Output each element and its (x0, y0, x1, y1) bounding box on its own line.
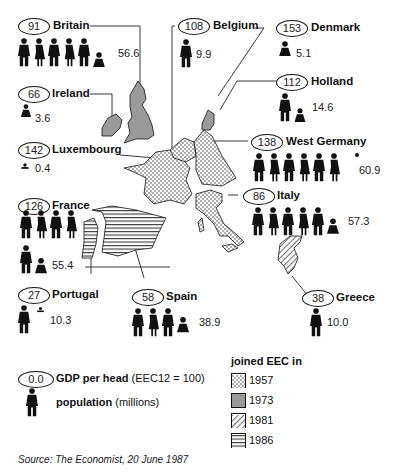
population-value-italy: 57.3 (348, 215, 369, 227)
woman-icon (298, 153, 310, 182)
gdp-oval-greece: 38 (302, 290, 334, 307)
population-figures-italy (252, 207, 339, 236)
man-icon (282, 207, 294, 236)
population-figures-britain (18, 38, 105, 67)
legend-gdp-oval: 0.0 (18, 371, 54, 388)
woman-icon (33, 38, 45, 67)
gdp-oval-ireland: 66 (18, 86, 50, 103)
legend-year-1973: 1973 (249, 394, 273, 406)
map-portugal (82, 218, 98, 258)
partial-person-icon (177, 312, 189, 337)
population-figures-luxembourg (20, 163, 30, 169)
country-name-west-germany: West Germany (286, 135, 366, 147)
country-name-belgium: Belgium (213, 19, 258, 31)
woman-icon (267, 207, 279, 236)
map-britain (124, 81, 154, 143)
partial-person-icon (20, 104, 32, 117)
population-figures-west-germany (253, 153, 340, 182)
partial-person-icon (35, 257, 47, 274)
map-sicily (222, 244, 238, 252)
man-icon (180, 39, 192, 68)
population-value-denmark: 5.1 (296, 47, 311, 59)
woman-icon (65, 210, 77, 239)
legend-year-1986: 1986 (249, 434, 273, 446)
man-icon (50, 210, 62, 239)
population-value-ireland: 3.6 (35, 112, 50, 124)
man-icon (18, 305, 30, 334)
population-value-belgium: 9.9 (196, 48, 211, 60)
man-icon (20, 210, 32, 239)
gdp-oval-italy: 86 (243, 188, 275, 205)
gdp-oval-denmark: 153 (276, 20, 308, 37)
population-figures-ireland (20, 104, 32, 117)
legend-swatch-1957 (231, 373, 246, 388)
legend-gdp-note: (EEC12 = 100) (132, 372, 205, 384)
country-name-ireland: Ireland (52, 87, 90, 99)
map-spain (92, 206, 166, 256)
woman-icon (328, 153, 340, 182)
map-greece (278, 236, 302, 274)
man-icon (48, 38, 60, 67)
man-icon (312, 207, 324, 236)
man-icon (18, 38, 30, 67)
population-figures-holland (279, 93, 306, 122)
gdp-oval-belgium: 108 (178, 18, 210, 35)
map-italy (196, 190, 244, 246)
country-name-italy: Italy (277, 189, 300, 201)
population-figures-denmark (279, 41, 291, 56)
tiny-person-icon (20, 163, 30, 169)
man-icon (313, 153, 325, 182)
legend-gdp-label: GDP per head (56, 372, 129, 384)
dot-icon (355, 153, 359, 157)
population-value-greece: 10.0 (327, 316, 348, 328)
population-figures-spain (132, 308, 189, 337)
partial-person-icon (93, 52, 105, 67)
legend-year-1957: 1957 (249, 374, 273, 386)
population-figures-belgium (180, 39, 192, 68)
legend-joined-title: joined EEC in (231, 355, 302, 367)
population-value-spain: 38.9 (199, 316, 220, 328)
country-name-portugal: Portugal (52, 288, 99, 300)
legend-swatch-1973 (231, 393, 246, 408)
man-icon (252, 207, 264, 236)
country-name-greece: Greece (336, 291, 375, 303)
man-icon (253, 153, 265, 182)
partial-person-icon (279, 41, 291, 56)
legend-person-icon (26, 388, 38, 417)
map-sardinia (198, 218, 204, 232)
source-caption: Source: The Economist, 20 June 1987 (18, 454, 188, 465)
legend-swatch-1986 (231, 433, 246, 448)
gdp-oval-portugal: 27 (18, 287, 50, 304)
country-name-denmark: Denmark (311, 21, 360, 33)
gdp-oval-west-germany: 138 (251, 134, 283, 151)
man-icon (310, 308, 322, 337)
partial-person-icon (327, 216, 339, 236)
country-name-luxembourg: Luxembourg (52, 143, 122, 155)
population-figures-portugal (18, 305, 30, 334)
man-icon (283, 153, 295, 182)
gdp-oval-britain: 91 (18, 18, 50, 35)
legend-population-label: population (56, 396, 112, 408)
population-value-portugal: 10.3 (50, 314, 71, 326)
partial-person-icon (294, 108, 306, 122)
population-figures-greece (310, 308, 322, 337)
map-denmark (202, 110, 214, 130)
woman-icon (35, 210, 47, 239)
population-value-britain: 56.6 (118, 47, 139, 59)
population-figures-france-row1 (20, 210, 77, 239)
gdp-oval-holland: 112 (276, 74, 308, 91)
legend-swatch-1981 (231, 413, 246, 428)
legend-year-1981: 1981 (249, 414, 273, 426)
man-icon (279, 93, 291, 122)
gdp-oval-spain: 58 (132, 289, 164, 306)
population-value-luxembourg: 0.4 (35, 162, 50, 174)
population-value-holland: 14.6 (312, 101, 333, 113)
man-icon (162, 308, 174, 337)
legend-gdp-text: GDP per head (EEC12 = 100) (56, 372, 205, 384)
man-icon (132, 308, 144, 337)
tiny-person-icon (36, 306, 45, 313)
population-figures-france-row2 (20, 245, 47, 274)
population-value-france: 55.4 (52, 259, 73, 271)
man-icon (20, 245, 32, 274)
woman-icon (297, 207, 309, 236)
